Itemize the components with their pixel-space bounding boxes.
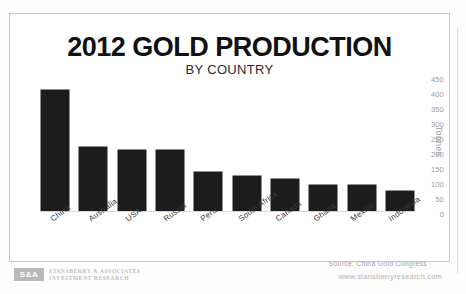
bar xyxy=(194,172,222,211)
bar-item xyxy=(155,76,185,211)
bar-item xyxy=(78,76,108,211)
y-tick-label: 0 xyxy=(418,211,444,219)
y-tick-label: 150 xyxy=(418,166,444,174)
axis-divider xyxy=(457,28,458,274)
y-axis-title: Tonnes xyxy=(434,126,444,156)
y-tick-label: 450 xyxy=(418,76,444,84)
bar-series xyxy=(40,76,415,211)
x-tick: USA xyxy=(115,214,145,262)
logo-mark: S&A xyxy=(14,268,44,281)
bar-item xyxy=(117,76,147,211)
bar xyxy=(118,150,146,212)
chart-title: 2012 GOLD PRODUCTION xyxy=(10,32,449,63)
bar-item xyxy=(232,76,262,211)
bar xyxy=(41,90,69,211)
x-tick: Canada xyxy=(265,214,295,262)
y-tick-label: 100 xyxy=(418,181,444,189)
bar-item xyxy=(347,76,377,211)
x-tick: Indonesia xyxy=(378,214,408,262)
x-tick: Russia xyxy=(153,214,183,262)
y-tick-label: 50 xyxy=(418,196,444,204)
x-tick: China xyxy=(40,214,70,262)
bar-item xyxy=(193,76,223,211)
bar-item xyxy=(40,76,70,211)
chart-subtitle: BY COUNTRY xyxy=(10,62,449,77)
brand-logo: S&A STANSBERRY & ASSOCIATES INVESTMENT R… xyxy=(14,268,140,281)
logo-text: STANSBERRY & ASSOCIATES INVESTMENT RESEA… xyxy=(49,268,140,281)
x-tick: Peru xyxy=(190,214,220,262)
plot-area xyxy=(40,76,415,211)
x-axis-category-labels: ChinaAustraliaUSARussiaPeruSouth AfricaC… xyxy=(40,214,415,262)
x-tick: South Africa xyxy=(228,214,258,262)
bar-item xyxy=(308,76,338,211)
y-tick-label: 400 xyxy=(418,91,444,99)
logo-line-1: STANSBERRY & ASSOCIATES xyxy=(49,268,140,275)
x-tick: Ghana xyxy=(303,214,333,262)
bar-item xyxy=(385,76,415,211)
chart-frame: 2012 GOLD PRODUCTION BY COUNTRY 45040035… xyxy=(9,13,450,262)
x-tick: Australia xyxy=(78,214,108,262)
y-tick-label: 350 xyxy=(418,106,444,114)
x-tick: Mexico xyxy=(340,214,370,262)
website-url: www.stansberryresearch.com xyxy=(338,272,442,281)
logo-line-2: INVESTMENT RESEARCH xyxy=(49,275,140,282)
bar xyxy=(79,147,107,211)
footer: S&A STANSBERRY & ASSOCIATES INVESTMENT R… xyxy=(9,266,450,288)
